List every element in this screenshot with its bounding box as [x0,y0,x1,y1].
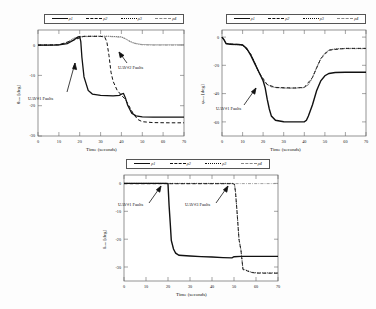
svg-text:20: 20 [261,139,265,144]
legend-label-rho1: ρ1 [251,17,255,21]
legend-sample-dotted [205,163,221,164]
legend-entry-rho1: ρ1 [52,17,73,21]
svg-text:10: 10 [57,139,61,144]
legend-label-rho4: ρ4 [354,17,358,21]
ylabel-bottom: δₐᵣₑᵣ [deg] [102,230,107,249]
svg-text:0: 0 [37,139,39,144]
x-tick-labels: 0 10 20 30 40 50 60 70 [221,139,368,144]
ylabel-top-left: θₐᵣₑᵣ [deg] [16,85,21,104]
legend-sample-dashdot [337,18,353,19]
legend-sample-dashed [268,18,284,19]
svg-text:0: 0 [221,139,223,144]
svg-text:0: 0 [119,181,121,186]
legend-entry-rho3: ρ3 [303,17,324,21]
annotation-uav3-faults-p3: UAV#3 Faults [185,202,210,207]
svg-text:70: 70 [364,139,368,144]
legend-label-rho1: ρ1 [69,17,73,21]
ylabel-top-right: φₐᵣₑᵣ [deg] [200,84,205,104]
svg-text:-20: -20 [213,63,219,68]
legend-entry-rho2: ρ2 [268,17,289,21]
svg-text:50: 50 [140,139,144,144]
legend-entry-rho3: ρ3 [121,17,142,21]
svg-text:20: 20 [78,139,82,144]
svg-text:-30: -30 [115,265,121,270]
svg-text:40: 40 [210,284,214,289]
plot-area-bottom: 0 10 20 30 40 50 60 70 0 -1 [96,155,286,307]
y-tick-labels: 0 -20 -40 -60 [213,35,219,125]
x-tick-labels: 0 10 20 30 40 50 60 70 [123,284,280,289]
legend-entry-rho4: ρ4 [155,17,176,21]
panel-top-right: ρ1 ρ2 ρ3 ρ4 [192,8,372,160]
svg-text:60: 60 [343,139,347,144]
svg-text:50: 50 [232,284,236,289]
svg-text:70: 70 [276,284,280,289]
svg-text:-20: -20 [115,237,121,242]
panel-top-left: ρ1 ρ2 ρ3 ρ4 [8,8,190,160]
xlabel-top-left: Time (seconds) [86,147,117,152]
legend-top-left: ρ1 ρ2 ρ3 ρ4 [44,14,184,24]
axes-frame [38,30,184,136]
legend-sample-solid [234,18,250,19]
svg-text:40: 40 [302,139,306,144]
svg-text:-10: -10 [29,73,35,78]
annotation-uav1-faults-p1: UAV#1 Faults [28,96,53,101]
legend-label-rho3: ρ3 [222,162,226,166]
svg-text:30: 30 [99,139,103,144]
legend-label-rho2: ρ2 [103,17,107,21]
legend-top-right: ρ1 ρ2 ρ3 ρ4 [226,14,366,24]
legend-sample-dotted [303,18,319,19]
y-tick-labels: 0 -10 -20 -30 [29,43,35,138]
legend-sample-dashdot [241,163,257,164]
y-tick-labels: 0 -10 -20 -30 [115,181,121,270]
annotation-uav2-faults-p1: UAV#2 Faults [118,65,143,70]
svg-text:40: 40 [119,139,123,144]
legend-label-rho3: ρ3 [320,17,324,21]
legend-entry-rho1: ρ1 [134,162,155,166]
legend-sample-dashdot [155,18,171,19]
svg-text:60: 60 [254,284,258,289]
legend-entry-rho4: ρ4 [241,162,262,166]
legend-entry-rho3: ρ3 [205,162,226,166]
svg-text:10: 10 [241,139,245,144]
xlabel-top-right: Time (seconds) [270,147,301,152]
svg-text:-30: -30 [29,133,35,138]
svg-text:0: 0 [33,43,35,48]
svg-text:0: 0 [123,284,125,289]
xlabel-bottom: Time (seconds) [176,292,207,297]
svg-text:0: 0 [217,35,219,40]
legend-sample-dashed [86,18,102,19]
svg-text:30: 30 [282,139,286,144]
legend-label-rho4: ρ4 [258,162,262,166]
legend-label-rho1: ρ1 [151,162,155,166]
x-tick-labels: 0 10 20 30 40 50 60 70 [37,139,186,144]
svg-text:70: 70 [182,139,186,144]
svg-text:-20: -20 [29,103,35,108]
annotation-uav1-faults-p2: UAV#1 Faults [216,106,241,111]
legend-label-rho2: ρ2 [285,17,289,21]
svg-text:-40: -40 [213,91,219,96]
svg-text:10: 10 [144,284,148,289]
annotation-uav1-faults-p3: UAV#1 Faults [118,202,143,207]
plot-area-top-right: 0 10 20 30 40 50 60 70 0 -2 [192,8,372,160]
svg-text:-10: -10 [115,209,121,214]
legend-sample-dashed [170,163,186,164]
legend-label-rho4: ρ4 [172,17,176,21]
legend-entry-rho2: ρ2 [170,162,191,166]
legend-label-rho3: ρ3 [138,17,142,21]
figure-canvas: ρ1 ρ2 ρ3 ρ4 [0,0,376,309]
legend-sample-solid [134,163,150,164]
svg-text:-60: -60 [213,120,219,125]
legend-entry-rho4: ρ4 [337,17,358,21]
legend-sample-solid [52,18,68,19]
legend-entry-rho2: ρ2 [86,17,107,21]
svg-text:20: 20 [166,284,170,289]
svg-text:30: 30 [188,284,192,289]
legend-label-rho2: ρ2 [187,162,191,166]
axes-frame [124,175,278,281]
plot-area-top-left: 0 10 20 30 40 50 60 70 0 -10 [8,8,190,160]
legend-sample-dotted [121,18,137,19]
svg-text:60: 60 [161,139,165,144]
svg-text:50: 50 [323,139,327,144]
legend-entry-rho1: ρ1 [234,17,255,21]
legend-bottom: ρ1 ρ2 ρ3 ρ4 [126,159,270,169]
